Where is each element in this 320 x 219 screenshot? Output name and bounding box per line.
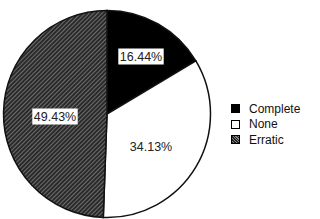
erratic-swatch-icon: [231, 135, 240, 144]
legend: Complete None Erratic: [231, 101, 300, 148]
legend-item-none: None: [231, 117, 300, 133]
legend-label: Erratic: [249, 134, 284, 146]
legend-item-erratic: Erratic: [231, 132, 300, 148]
legend-item-complete: Complete: [231, 101, 300, 117]
slice-label: 34.13%: [130, 140, 172, 154]
none-swatch-icon: [231, 120, 240, 129]
legend-label: Complete: [249, 103, 300, 115]
complete-swatch-icon: [231, 104, 240, 113]
slice-label: 16.44%: [120, 50, 162, 64]
slice-label: 49.43%: [34, 110, 76, 124]
legend-label: None: [249, 118, 278, 130]
